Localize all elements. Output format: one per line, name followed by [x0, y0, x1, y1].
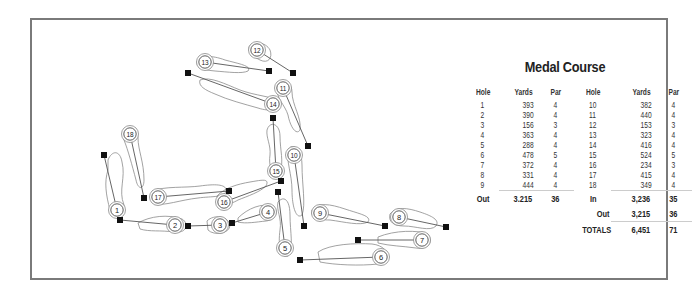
hole-number: 7 — [481, 160, 485, 170]
table-row: 94444183494 — [466, 180, 692, 191]
table-row: 83314174154 — [466, 170, 692, 180]
fairway-outlines — [106, 43, 437, 265]
in-par: 35 — [669, 191, 677, 206]
hole-yards: 478 — [522, 150, 533, 160]
header-yards-front: Yards — [499, 87, 537, 100]
hole-number: 3 — [481, 120, 485, 130]
course-title: Medal Course — [501, 58, 629, 75]
hole-par: 4 — [554, 100, 558, 110]
hole-par: 4 — [554, 180, 558, 190]
hole-number-label: 5 — [283, 244, 287, 253]
totals-par: 71 — [669, 222, 677, 237]
hole-number: 5 — [481, 140, 485, 150]
tee-marker-icon — [290, 70, 296, 76]
totals-label: TOTALS — [582, 222, 611, 237]
header-yards-back: Yards — [611, 87, 654, 100]
hole-yards: 234 — [640, 160, 651, 170]
hole-par: 4 — [554, 130, 558, 140]
out-label: Out — [476, 191, 489, 206]
tee-marker-icon — [443, 224, 449, 230]
hole-yards: 372 — [522, 160, 533, 170]
header-hole-front: Hole — [466, 87, 499, 100]
hole-yards: 156 — [522, 120, 533, 130]
hole-number-label: 10 — [290, 152, 298, 159]
tee-marker-icon — [185, 70, 191, 76]
hole-par: 4 — [554, 170, 558, 180]
totals-row: TOTALS 6,451 71 — [466, 222, 692, 238]
hole-number: 1 — [481, 100, 485, 110]
out-repeat-label: Out — [597, 206, 610, 221]
hole-number-label: 4 — [266, 208, 270, 217]
hole-number-label: 15 — [272, 168, 280, 175]
tee-marker-icon — [101, 152, 107, 158]
hole-par: 4 — [672, 130, 676, 140]
tee-marker-icon — [270, 115, 276, 121]
hole-number: 8 — [481, 170, 485, 180]
hole-number: 18 — [589, 180, 596, 190]
hole-number-label: 1 — [115, 206, 119, 215]
hole-yards: 416 — [640, 140, 651, 150]
tee-marker-icon — [278, 178, 284, 184]
out-repeat-yards: 3,215 — [632, 206, 651, 221]
table-row: 23904114404 — [466, 110, 692, 120]
hole-number-label: 16 — [220, 199, 228, 206]
hole-number: 10 — [589, 100, 596, 110]
hole-yards: 363 — [522, 130, 533, 140]
hole-yards: 349 — [640, 180, 651, 190]
hole-par: 5 — [554, 150, 558, 160]
hole-yards: 323 — [640, 130, 651, 140]
hole-9: 9 — [312, 205, 389, 230]
tee-marker-icon — [141, 195, 147, 201]
hole-yards: 393 — [522, 100, 533, 110]
tee-marker-icon — [301, 223, 307, 229]
hole-number-label: 9 — [318, 209, 322, 218]
hole-15: 15 — [268, 115, 285, 180]
tee-marker-icon — [226, 188, 232, 194]
totals-yards: 6,451 — [632, 222, 651, 237]
hole-line — [294, 155, 304, 226]
hole-yards: 153 — [640, 120, 651, 130]
hole-yards: 524 — [640, 150, 651, 160]
hole-yards: 331 — [522, 170, 533, 180]
hole-number: 15 — [589, 150, 596, 160]
hole-3: 3 — [185, 217, 229, 234]
hole-number-label: 8 — [397, 213, 401, 222]
hole-number-label: 6 — [379, 253, 383, 262]
hole-number: 16 — [589, 160, 596, 170]
tee-marker-icon — [355, 237, 361, 243]
tee-marker-icon — [305, 143, 311, 149]
hole-number-label: 2 — [173, 221, 177, 230]
hole-par: 4 — [554, 140, 558, 150]
hole-par: 4 — [672, 170, 676, 180]
header-par-front: Par — [537, 87, 574, 100]
table-row: 73724162343 — [466, 160, 692, 170]
hole-7: 7 — [355, 232, 431, 249]
table-row: 52884144164 — [466, 140, 692, 150]
hole-14: 14 — [185, 70, 282, 113]
hole-number-label: 18 — [126, 131, 134, 138]
hole-number: 6 — [481, 150, 485, 160]
scorecard-header-row: Hole Yards Par Hole Yards Par — [466, 87, 692, 100]
hole-number: 9 — [481, 180, 485, 190]
hole-6: 6 — [297, 249, 390, 266]
hole-number-label: 12 — [253, 47, 261, 54]
hole-line — [300, 257, 381, 260]
tee-marker-icon — [185, 223, 191, 229]
hole-number: 17 — [589, 170, 596, 180]
out-yards: 3.215 — [514, 191, 533, 206]
hole-number-label: 17 — [154, 194, 162, 201]
tee-marker-icon — [297, 257, 303, 263]
header-par-back: Par — [655, 87, 692, 100]
hole-number-label: 14 — [269, 101, 277, 108]
hole-line — [188, 73, 273, 104]
hole-yards: 288 — [522, 140, 533, 150]
out-par: 36 — [552, 191, 560, 206]
hole-par: 3 — [672, 120, 676, 130]
hole-number: 13 — [589, 130, 596, 140]
hole-number: 4 — [481, 130, 485, 140]
hole-18: 18 — [122, 126, 148, 202]
hole-line — [283, 88, 308, 146]
hole-yards: 382 — [640, 100, 651, 110]
hole-10: 10 — [286, 147, 308, 230]
hole-par: 4 — [672, 140, 676, 150]
